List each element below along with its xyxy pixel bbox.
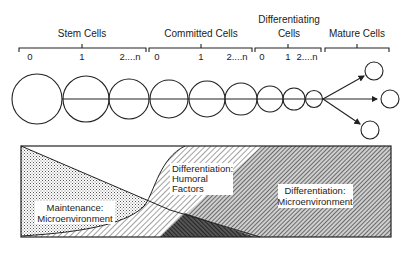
zone-label-maintenance-2: Microenvironment: [37, 213, 113, 224]
zone-label-diffmicro-1: Differentiation:: [284, 185, 345, 196]
tick-differentiating-1: 1: [285, 51, 290, 62]
mature-cell-circle: [381, 90, 399, 108]
tick-committed-n: 2....n: [226, 51, 247, 62]
stage-label-committed: Committed Cells: [164, 28, 237, 39]
arrow-down: [323, 99, 360, 124]
regulation-chart: Maintenance: Microenvironment Differenti…: [21, 146, 391, 237]
stage-labels: Stem Cells Committed Cells Differentiati…: [58, 14, 385, 39]
stage-label-mature: Mature Cells: [329, 28, 385, 39]
tick-stem-0: 0: [27, 51, 32, 62]
cell-circle: [12, 74, 62, 124]
bracket-mature: [325, 48, 389, 52]
stage-label-stem: Stem Cells: [58, 28, 106, 39]
tick-committed-1: 1: [198, 51, 203, 62]
zone-label-humoral-3: Factors: [172, 183, 204, 194]
arrow-up: [323, 76, 364, 99]
stage-label-differentiating-line1: Differentiating: [258, 14, 320, 25]
generation-numbers: 0 1 2....n 0 1 2....n 0 1 2....n: [27, 51, 317, 62]
mature-cell-circle: [361, 121, 379, 139]
tick-differentiating-0: 0: [259, 51, 264, 62]
tick-committed-0: 0: [154, 51, 159, 62]
tick-stem-n: 2....n: [119, 51, 140, 62]
zone-label-maintenance-1: Maintenance:: [46, 202, 103, 213]
cell-progression: [12, 62, 399, 139]
zone-label-diffmicro-2: Microenvironment: [277, 196, 353, 207]
mature-cell-circle: [365, 62, 383, 80]
tick-stem-1: 1: [79, 51, 84, 62]
differentiation-diagram: Stem Cells Committed Cells Differentiati…: [0, 0, 411, 260]
stage-brackets: [19, 44, 389, 52]
tick-differentiating-n: 2....n: [296, 51, 317, 62]
stage-label-differentiating-line2: Cells: [278, 28, 300, 39]
